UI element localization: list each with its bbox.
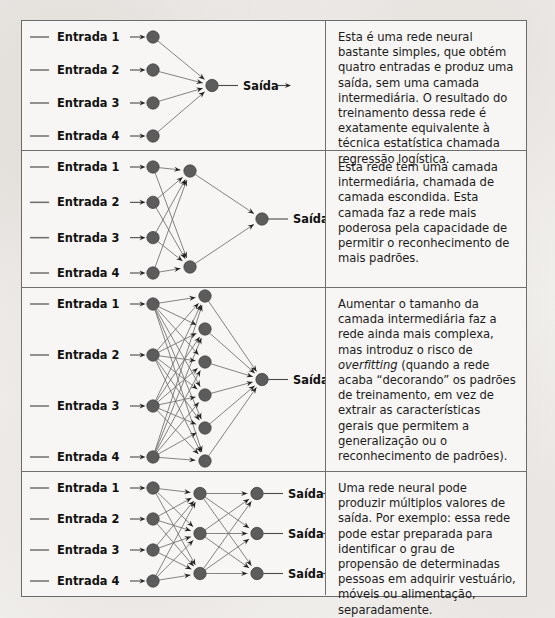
edges-group bbox=[30, 488, 325, 581]
panel-4-network-diagram: Entrada 1Entrada 2Entrada 3Entrada 4Saíd… bbox=[22, 472, 325, 595]
edge-arrowhead bbox=[185, 564, 193, 571]
input-node bbox=[147, 231, 159, 243]
output-label: Saída bbox=[288, 567, 324, 581]
connection-edge bbox=[159, 297, 195, 303]
connection-edge bbox=[155, 180, 187, 267]
output-node bbox=[251, 567, 263, 579]
hidden-node bbox=[199, 422, 211, 434]
input-label: Entrada 3 bbox=[57, 543, 119, 557]
input-label: Entrada 1 bbox=[57, 297, 119, 311]
hidden-node bbox=[184, 165, 196, 177]
edge-arrowhead bbox=[195, 380, 203, 388]
connection-edge bbox=[159, 521, 191, 531]
connection-edge bbox=[158, 92, 205, 132]
labels-group: Entrada 1Entrada 2Entrada 3Entrada 4Saíd… bbox=[57, 481, 324, 588]
nodes-group bbox=[147, 161, 268, 279]
caption-text: Aumentar o tamanho da camada intermediár… bbox=[338, 297, 516, 464]
connection-edge bbox=[158, 242, 183, 262]
connection-edge bbox=[156, 370, 200, 451]
connection-edge bbox=[210, 333, 255, 373]
input-label: Entrada 4 bbox=[57, 574, 119, 588]
output-label: Saída bbox=[288, 527, 324, 541]
hidden-node bbox=[199, 356, 211, 368]
edges-group bbox=[30, 297, 325, 460]
input-node bbox=[147, 544, 159, 556]
edge-arrowhead bbox=[243, 522, 251, 530]
input-node bbox=[147, 575, 159, 587]
input-node bbox=[147, 161, 159, 173]
output-node bbox=[251, 527, 263, 539]
diagram-table: Entrada 1Entrada 2Entrada 3Entrada 4Saíd… bbox=[21, 20, 527, 597]
edge-arrowhead bbox=[196, 79, 203, 86]
nodes-group bbox=[147, 482, 263, 587]
edge-arrowhead bbox=[196, 86, 203, 93]
edge-arrowhead bbox=[246, 380, 253, 387]
input-node bbox=[147, 64, 159, 76]
panel-3-caption: Aumentar o tamanho da camada intermediár… bbox=[325, 288, 526, 471]
output-label: Saída bbox=[243, 79, 279, 93]
edge-arrowhead bbox=[247, 222, 255, 230]
panel-2-network-diagram: Entrada 1Entrada 2Entrada 3Entrada 4Saíd… bbox=[22, 151, 325, 287]
connection-edge bbox=[158, 177, 183, 198]
connection-edge bbox=[158, 41, 205, 79]
hidden-node bbox=[199, 290, 211, 302]
panel-4: Entrada 1Entrada 2Entrada 3Entrada 4Saíd… bbox=[22, 471, 526, 595]
input-label: Entrada 4 bbox=[57, 450, 119, 464]
input-node bbox=[147, 267, 159, 279]
hidden-node bbox=[184, 261, 196, 273]
edge-arrowhead bbox=[246, 372, 254, 379]
connection-edge bbox=[204, 501, 252, 568]
hidden-node bbox=[199, 455, 211, 467]
connection-edge bbox=[209, 387, 257, 456]
panel-4-caption: Uma rede neural pode produzir múltiplos … bbox=[325, 472, 526, 595]
input-node bbox=[147, 130, 159, 142]
connection-edge bbox=[159, 537, 191, 548]
panel-1-caption: Esta é uma rede neural bastante simples,… bbox=[325, 21, 526, 150]
input-label: Entrada 2 bbox=[57, 512, 119, 526]
network-svg: Entrada 1Entrada 2Entrada 3Entrada 4Saíd… bbox=[22, 151, 325, 287]
panel-1-network-diagram: Entrada 1Entrada 2Entrada 3Entrada 4Saíd… bbox=[22, 21, 325, 150]
input-node bbox=[147, 298, 159, 310]
panel-2-caption: Esta rede tem uma camada intermediária, … bbox=[325, 151, 526, 287]
nodes-group bbox=[147, 31, 218, 142]
input-node bbox=[147, 196, 159, 208]
input-label: Entrada 1 bbox=[57, 30, 119, 44]
hidden-node bbox=[194, 487, 206, 499]
hidden-node bbox=[194, 567, 206, 579]
edge-arrowhead bbox=[247, 208, 255, 216]
input-label: Entrada 2 bbox=[57, 63, 119, 77]
connection-edge bbox=[159, 72, 203, 83]
input-node bbox=[147, 349, 159, 361]
input-node bbox=[147, 482, 159, 494]
labels-group: Entrada 1Entrada 2Entrada 3Entrada 4Saíd… bbox=[57, 30, 279, 143]
edge-arrowhead bbox=[189, 394, 196, 400]
edge-arrowhead bbox=[184, 534, 192, 541]
edge-arrowhead bbox=[243, 537, 251, 545]
connection-edge bbox=[195, 174, 254, 213]
connection-edge bbox=[204, 499, 252, 566]
hidden-node bbox=[199, 323, 211, 335]
panel-3: Entrada 1Entrada 2Entrada 3Entrada 4Saíd… bbox=[22, 287, 526, 471]
panel-3-network-diagram: Entrada 1Entrada 2Entrada 3Entrada 4Saíd… bbox=[22, 288, 325, 471]
input-label: Entrada 1 bbox=[57, 481, 119, 495]
nodes-group bbox=[147, 290, 268, 467]
caption-text: Esta é uma rede neural bastante simples,… bbox=[338, 30, 516, 167]
connection-edge bbox=[159, 307, 197, 325]
input-label: Entrada 2 bbox=[57, 348, 119, 362]
input-node bbox=[147, 97, 159, 109]
output-node bbox=[256, 373, 268, 385]
panel-1: Entrada 1Entrada 2Entrada 3Entrada 4Saíd… bbox=[22, 21, 526, 150]
output-label: Saída bbox=[293, 212, 325, 226]
input-label: Entrada 1 bbox=[57, 160, 119, 174]
output-node bbox=[251, 487, 263, 499]
connection-edge bbox=[205, 539, 249, 570]
connection-edge bbox=[157, 303, 199, 350]
input-label: Entrada 4 bbox=[57, 129, 119, 143]
input-label: Entrada 2 bbox=[57, 195, 119, 209]
input-node bbox=[147, 400, 159, 412]
figure-page: Entrada 1Entrada 2Entrada 3Entrada 4Saíd… bbox=[0, 0, 555, 618]
input-node bbox=[147, 451, 159, 463]
connection-edge bbox=[205, 497, 249, 528]
input-label: Entrada 3 bbox=[57, 399, 119, 413]
input-label: Entrada 3 bbox=[57, 231, 119, 245]
